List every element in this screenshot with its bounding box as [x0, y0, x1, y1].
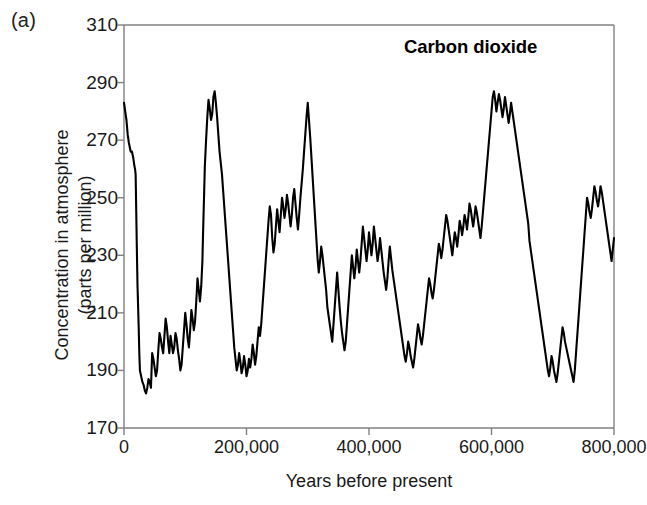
x-tick-label: 600,000 — [459, 437, 524, 458]
axis-lines — [124, 25, 614, 428]
x-tick-label: 800,000 — [581, 437, 646, 458]
x-tick-marks — [124, 428, 614, 435]
x-tick-label: 200,000 — [214, 437, 279, 458]
figure-carbon-dioxide: (a) Carbon dioxide Concentration in atmo… — [0, 0, 647, 505]
co2-data-line — [124, 91, 614, 393]
plot-area — [0, 0, 647, 505]
y-tick-marks — [117, 25, 124, 428]
x-tick-label: 0 — [119, 437, 129, 458]
x-tick-label: 400,000 — [336, 437, 401, 458]
